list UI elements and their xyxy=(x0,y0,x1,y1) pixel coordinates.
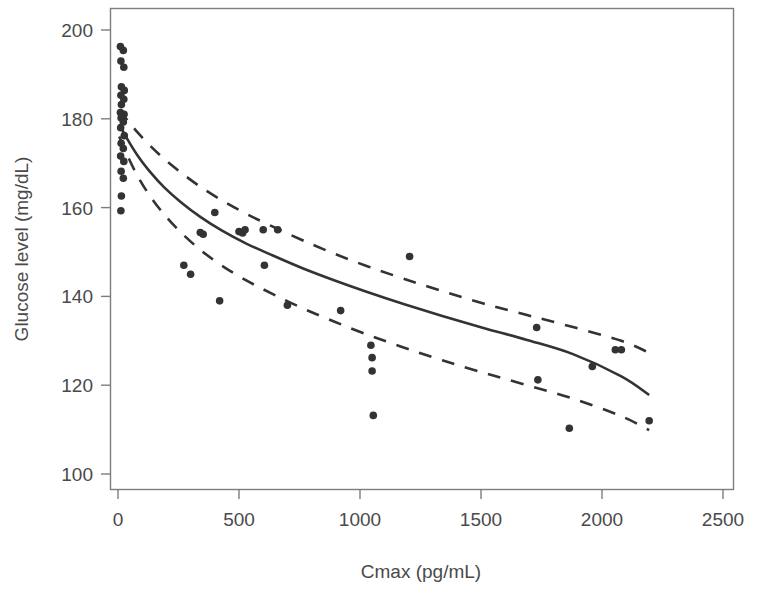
x-axis-label: Cmax (pg/mL) xyxy=(361,561,481,582)
data-point xyxy=(199,230,207,238)
x-tick-label: 1500 xyxy=(460,509,502,530)
data-point xyxy=(120,175,128,183)
data-point xyxy=(259,226,267,234)
data-point xyxy=(533,324,541,332)
data-point xyxy=(645,417,653,425)
data-point xyxy=(120,158,128,166)
x-tick-label: 2500 xyxy=(702,509,744,530)
data-point xyxy=(118,101,126,109)
data-point xyxy=(406,253,414,261)
data-point xyxy=(120,145,128,153)
x-tick-label: 0 xyxy=(113,509,124,530)
data-point xyxy=(261,262,269,270)
y-tick-label: 100 xyxy=(61,464,93,485)
data-point xyxy=(284,301,292,309)
data-point xyxy=(534,376,542,384)
data-point xyxy=(367,341,375,349)
data-point xyxy=(120,132,128,140)
scatter-plot: 100120140160180200 05001000150020002500 … xyxy=(0,0,761,598)
data-point xyxy=(117,124,125,132)
y-tick-label: 200 xyxy=(61,20,93,41)
data-point xyxy=(241,226,249,234)
y-axis-label: Glucose level (mg/dL) xyxy=(11,157,32,342)
x-tick-label: 1000 xyxy=(339,509,381,530)
data-point xyxy=(118,192,126,200)
x-tick-label: 500 xyxy=(223,509,255,530)
data-point xyxy=(566,424,574,432)
data-point xyxy=(370,412,378,420)
y-tick-label: 180 xyxy=(61,109,93,130)
data-point xyxy=(618,346,626,354)
data-point xyxy=(337,307,345,315)
data-point xyxy=(117,167,125,175)
data-point xyxy=(589,363,597,371)
data-point xyxy=(117,207,125,215)
y-tick-label: 120 xyxy=(61,375,93,396)
data-point xyxy=(368,367,376,375)
data-point xyxy=(120,64,128,72)
y-tick-label: 140 xyxy=(61,286,93,307)
data-point xyxy=(120,47,128,55)
data-point xyxy=(274,226,282,234)
data-point xyxy=(187,270,195,278)
data-point xyxy=(368,354,376,362)
data-point xyxy=(180,262,188,270)
data-point xyxy=(211,209,219,217)
y-tick-label: 160 xyxy=(61,198,93,219)
data-point xyxy=(216,297,224,305)
chart-figure: 100120140160180200 05001000150020002500 … xyxy=(0,0,761,598)
x-tick-label: 2000 xyxy=(581,509,623,530)
